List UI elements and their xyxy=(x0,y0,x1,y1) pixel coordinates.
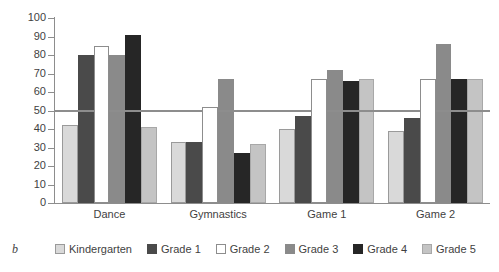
panel-letter: b xyxy=(12,243,18,255)
y-axis-tick xyxy=(48,203,55,204)
y-axis-tick xyxy=(48,92,55,93)
bar-grade-4[interactable] xyxy=(234,153,250,203)
bar-grade-1[interactable] xyxy=(78,55,94,203)
legend-swatch-icon xyxy=(216,244,226,254)
bar-grade-2[interactable] xyxy=(420,79,436,203)
bar-grade-1[interactable] xyxy=(186,142,202,203)
y-axis-tick xyxy=(48,37,55,38)
bar-grade-4[interactable] xyxy=(451,79,467,203)
y-axis-tick xyxy=(48,55,55,56)
y-axis-tick-label: 100 xyxy=(2,12,46,23)
bar-grade-2[interactable] xyxy=(94,46,110,203)
y-axis-tick-label: 60 xyxy=(2,86,46,97)
bar-grade-3[interactable] xyxy=(109,55,125,203)
bar-grade-3[interactable] xyxy=(218,79,234,203)
bar-grade-1[interactable] xyxy=(295,116,311,203)
bar-grade-2[interactable] xyxy=(311,79,327,203)
legend-label: Grade 5 xyxy=(436,243,476,255)
bar-grade-3[interactable] xyxy=(327,70,343,203)
bar-grade-5[interactable] xyxy=(141,127,157,203)
bar-grade-1[interactable] xyxy=(404,118,420,203)
bar-kindergarten[interactable] xyxy=(62,125,78,203)
x-axis-category-label: Gymnastics xyxy=(171,208,266,220)
y-axis-tick-label: 90 xyxy=(2,31,46,42)
y-axis-tick xyxy=(48,166,55,167)
x-axis-category-label: Game 2 xyxy=(388,208,483,220)
legend-label: Grade 1 xyxy=(161,243,201,255)
bar-kindergarten[interactable] xyxy=(279,129,295,203)
y-axis-tick xyxy=(48,111,55,112)
legend-item-grade-3[interactable]: Grade 3 xyxy=(285,243,339,255)
bar-kindergarten[interactable] xyxy=(388,131,404,203)
bar-grade-5[interactable] xyxy=(467,79,483,203)
bar-chart-figure: 0102030405060708090100 b KindergartenGra… xyxy=(0,0,499,272)
legend-swatch-icon xyxy=(422,244,432,254)
y-axis-tick-label: 0 xyxy=(2,197,46,208)
legend-item-grade-1[interactable]: Grade 1 xyxy=(147,243,201,255)
y-axis-tick-label: 20 xyxy=(2,160,46,171)
bar-grade-4[interactable] xyxy=(125,35,141,203)
x-axis-category-label: Game 1 xyxy=(279,208,374,220)
bar-grade-4[interactable] xyxy=(343,81,359,203)
y-axis-tick-label: 50 xyxy=(2,105,46,116)
legend-item-kindergarten[interactable]: Kindergarten xyxy=(55,243,132,255)
legend-label: Grade 3 xyxy=(299,243,339,255)
bar-grade-5[interactable] xyxy=(359,79,375,203)
chart-legend: KindergartenGrade 1Grade 2Grade 3Grade 4… xyxy=(55,243,485,255)
legend-label: Kindergarten xyxy=(69,243,132,255)
y-axis-labels: 0102030405060708090100 xyxy=(0,0,46,272)
y-axis-tick xyxy=(48,18,55,19)
legend-swatch-icon xyxy=(285,244,295,254)
x-axis-category-label: Dance xyxy=(62,208,157,220)
legend-item-grade-4[interactable]: Grade 4 xyxy=(353,243,407,255)
y-axis-tick xyxy=(48,129,55,130)
y-axis-tick xyxy=(48,148,55,149)
legend-item-grade-5[interactable]: Grade 5 xyxy=(422,243,476,255)
y-axis-tick xyxy=(48,74,55,75)
legend-item-grade-2[interactable]: Grade 2 xyxy=(216,243,270,255)
legend-label: Grade 4 xyxy=(367,243,407,255)
bar-grade-2[interactable] xyxy=(202,107,218,203)
legend-swatch-icon xyxy=(147,244,157,254)
y-axis-tick-label: 70 xyxy=(2,68,46,79)
y-axis-tick-label: 10 xyxy=(2,179,46,190)
bar-kindergarten[interactable] xyxy=(171,142,187,203)
legend-swatch-icon xyxy=(353,244,363,254)
x-axis-line xyxy=(54,203,490,204)
legend-swatch-icon xyxy=(55,244,65,254)
bar-grade-3[interactable] xyxy=(436,44,452,203)
y-axis-tick-label: 30 xyxy=(2,142,46,153)
y-axis-tick-label: 80 xyxy=(2,49,46,60)
y-axis-tick-label: 40 xyxy=(2,123,46,134)
bar-grade-5[interactable] xyxy=(250,144,266,203)
legend-label: Grade 2 xyxy=(230,243,270,255)
y-axis-tick xyxy=(48,185,55,186)
